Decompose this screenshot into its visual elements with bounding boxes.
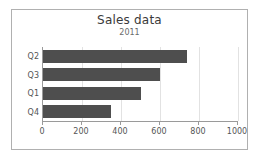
y-axis-label-q2: Q2 bbox=[28, 52, 39, 61]
x-axis-label-600: 600 bbox=[151, 127, 166, 136]
plot-area: Q2Q3Q1Q4 bbox=[42, 47, 238, 121]
x-axis-tick-labels: 02004006008001000 bbox=[42, 122, 238, 136]
x-axis-tick bbox=[237, 122, 238, 125]
x-axis-tick bbox=[198, 122, 199, 125]
y-axis-label-q3: Q3 bbox=[28, 70, 39, 79]
x-axis-label-400: 400 bbox=[112, 127, 127, 136]
bar-row[interactable]: Q1 bbox=[43, 87, 238, 100]
bar-row[interactable]: Q2 bbox=[43, 50, 238, 63]
x-axis-tick bbox=[159, 122, 160, 125]
y-axis-label-q1: Q1 bbox=[28, 89, 39, 98]
x-axis-label-200: 200 bbox=[73, 127, 88, 136]
bar-q2[interactable] bbox=[43, 50, 187, 63]
x-axis-tick bbox=[81, 122, 82, 125]
x-axis-label-800: 800 bbox=[190, 127, 205, 136]
bar-q3[interactable] bbox=[43, 68, 160, 81]
x-axis-tick bbox=[120, 122, 121, 125]
gridline bbox=[238, 47, 239, 121]
y-axis-label-q4: Q4 bbox=[28, 107, 39, 116]
x-axis-label-1000: 1000 bbox=[227, 127, 247, 136]
bar-q1[interactable] bbox=[43, 87, 141, 100]
chart-title: Sales data bbox=[12, 13, 247, 27]
bar-q4[interactable] bbox=[43, 105, 111, 118]
x-axis-tick bbox=[42, 122, 43, 125]
chart-frame: Sales data 2011 Q2Q3Q1Q4 020040060080010… bbox=[11, 9, 248, 150]
chart-subtitle: 2011 bbox=[12, 28, 247, 37]
x-axis-label-0: 0 bbox=[39, 127, 44, 136]
bar-row[interactable]: Q3 bbox=[43, 68, 238, 81]
bar-row[interactable]: Q4 bbox=[43, 105, 238, 118]
